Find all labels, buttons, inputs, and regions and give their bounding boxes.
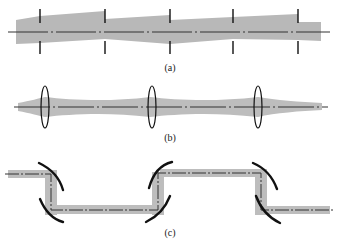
panel-c-label: (c): [150, 227, 190, 238]
diagram-canvas: [0, 0, 337, 241]
panel-a-beam: [16, 11, 321, 44]
panel-b-label: (b): [150, 132, 190, 143]
panel-a-label: (a): [150, 62, 190, 73]
